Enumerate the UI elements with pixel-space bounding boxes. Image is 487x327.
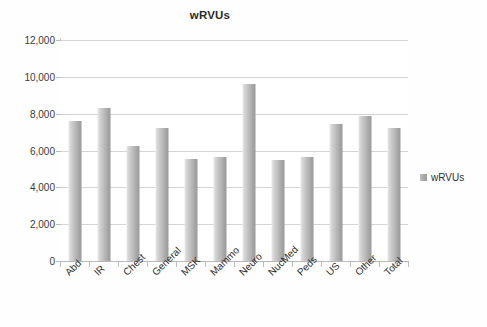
- bar-slot: [350, 40, 379, 261]
- bar[interactable]: [387, 128, 400, 261]
- bar-slot: [321, 40, 350, 261]
- y-axis-tick-mark: [56, 187, 61, 188]
- x-axis-tick-mark: [321, 262, 322, 267]
- bar[interactable]: [271, 160, 284, 261]
- y-axis-tick-label: 12,000: [3, 35, 55, 46]
- bar[interactable]: [97, 108, 110, 261]
- x-axis-tick-mark: [350, 262, 351, 267]
- legend-item-label: wRVUs: [431, 172, 464, 183]
- x-axis-tick-mark: [234, 262, 235, 267]
- bar-slot: [379, 40, 408, 261]
- y-axis-tick-label: 4,000: [3, 182, 55, 193]
- chart-title: wRVUs: [0, 9, 420, 21]
- bar[interactable]: [155, 128, 168, 261]
- bar-slot: [176, 40, 205, 261]
- bar[interactable]: [184, 159, 197, 261]
- bar-slot: [263, 40, 292, 261]
- bar-slot: [118, 40, 147, 261]
- chart-legend[interactable]: wRVUs: [420, 172, 464, 183]
- y-axis-tick-label: 6,000: [3, 145, 55, 156]
- x-axis-tick-label: IR: [92, 263, 107, 278]
- chart-screenshot: wRVUs 02,0004,0006,0008,00010,00012,000 …: [0, 0, 487, 327]
- x-axis-tick-mark: [408, 262, 409, 267]
- bar-slot: [234, 40, 263, 261]
- y-axis-tick-label: 0: [3, 256, 55, 267]
- plot-area: [60, 40, 408, 261]
- x-axis-tick-mark: [60, 262, 61, 267]
- bar[interactable]: [213, 157, 226, 261]
- y-axis-tick-mark: [56, 77, 61, 78]
- bar[interactable]: [300, 157, 313, 261]
- x-axis-tick-mark: [292, 262, 293, 267]
- y-axis-tick-label: 2,000: [3, 219, 55, 230]
- y-axis: 02,0004,0006,0008,00010,00012,000: [0, 0, 55, 327]
- bar[interactable]: [126, 146, 139, 261]
- x-axis-tick-mark: [176, 262, 177, 267]
- x-axis-tick-mark: [147, 262, 148, 267]
- bar-slot: [60, 40, 89, 261]
- x-axis-tick-mark: [89, 262, 90, 267]
- y-axis-tick-label: 8,000: [3, 108, 55, 119]
- bar[interactable]: [68, 121, 81, 261]
- y-axis-tick-mark: [56, 151, 61, 152]
- y-axis-tick-label: 10,000: [3, 71, 55, 82]
- x-axis-tick-mark: [263, 262, 264, 267]
- y-axis-tick-mark: [56, 224, 61, 225]
- x-axis-tick-mark: [118, 262, 119, 267]
- legend-square-icon: [420, 174, 427, 181]
- bar[interactable]: [358, 116, 371, 261]
- figure-caption-cropped: [0, 312, 487, 327]
- x-axis-tick-mark: [379, 262, 380, 267]
- bar-slot: [292, 40, 321, 261]
- y-axis-tick-mark: [56, 114, 61, 115]
- x-axis-tick-mark: [205, 262, 206, 267]
- bar-slot: [147, 40, 176, 261]
- x-axis-tick-label: US: [324, 260, 342, 278]
- bar[interactable]: [242, 84, 255, 261]
- bar-slot: [89, 40, 118, 261]
- bar-slot: [205, 40, 234, 261]
- bar[interactable]: [329, 124, 342, 261]
- y-axis-tick-mark: [56, 40, 61, 41]
